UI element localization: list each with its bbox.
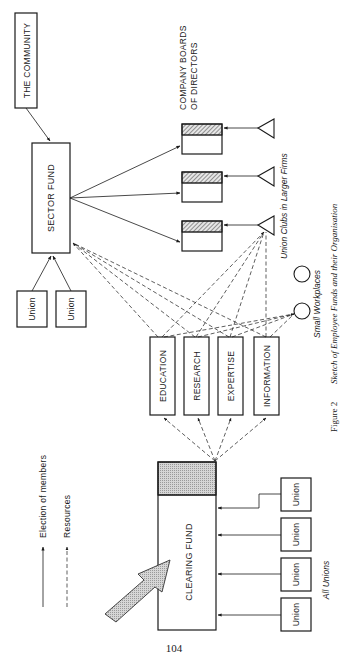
resource-research: RESEARCH	[184, 337, 209, 415]
company-boards-label-1: COMPANY BOARDS	[178, 25, 188, 110]
sector-union-2: Union	[56, 291, 86, 327]
sector-union-1-label: Union	[27, 297, 37, 321]
clearing-union-3-label: Union	[291, 563, 301, 587]
all-unions-label: All Unions	[321, 560, 331, 600]
resource-information-label: INFORMATION	[262, 345, 272, 407]
resources-to-workplaces-dashed	[164, 314, 294, 337]
legend: Election of members Resources	[38, 455, 72, 607]
resource-research-label: RESEARCH	[192, 351, 202, 401]
union-to-sector-arrow	[32, 256, 51, 291]
company-board-1	[182, 124, 222, 154]
figure-number: Figure 2	[329, 402, 339, 432]
clearing-fund-label: CLEARING FUND	[184, 523, 194, 601]
company-board-3	[182, 221, 222, 251]
union-club-1	[258, 119, 274, 138]
sector-fund-label: SECTOR FUND	[46, 164, 56, 232]
clearing-union-3: Union	[281, 558, 311, 591]
big-input-arrow	[105, 560, 170, 622]
company-boards-label-2: OF DIRECTORS	[189, 42, 199, 110]
sector-to-board-arrow	[70, 146, 180, 198]
community-node: THE COMMUNITY	[15, 13, 37, 108]
small-workplaces-label: Small Workplaces	[312, 269, 322, 338]
union-to-clearing-arrow	[218, 494, 281, 508]
resource-information: INFORMATION	[254, 337, 279, 415]
small-workplace-1	[294, 266, 310, 282]
resource-education: EDUCATION	[150, 337, 175, 415]
resources-to-clubs-dashed	[162, 232, 266, 337]
legend-resources-label: Resources	[62, 495, 72, 538]
page-number: 104	[166, 642, 183, 654]
community-label: THE COMMUNITY	[22, 23, 32, 99]
clearing-union-4-label: Union	[291, 603, 301, 627]
union-club-2	[258, 167, 274, 186]
union-to-sector-arrow	[53, 256, 71, 291]
clearing-union-1: Union	[281, 478, 311, 511]
sector-union-2-label: Union	[66, 297, 76, 321]
community-to-sector-arrow	[26, 108, 50, 141]
sector-union-1: Union	[17, 291, 47, 327]
clearing-union-1-label: Union	[291, 483, 301, 507]
resource-expertise: EXPERTISE	[218, 337, 243, 415]
clearing-to-resources-dashed	[164, 418, 266, 461]
clearing-union-2-label: Union	[291, 523, 301, 547]
resource-education-label: EDUCATION	[158, 350, 168, 402]
legend-election-label: Election of members	[38, 455, 48, 538]
company-board-2	[182, 172, 222, 202]
clearing-union-4: Union	[281, 598, 311, 631]
union-clubs-label: Union Clubs in Larger Firms	[279, 152, 289, 259]
clearing-fund-node: CLEARING FUND	[158, 462, 216, 630]
figure-title: Sketch of Employee Funds and their Organ…	[329, 203, 339, 384]
employee-funds-diagram: THE COMMUNITY SECTOR FUND Union Union CO…	[0, 0, 348, 656]
resource-expertise-label: EXPERTISE	[226, 351, 236, 401]
small-workplace-2	[294, 303, 310, 319]
sector-to-board-arrow	[70, 198, 180, 242]
sector-to-board-arrow	[70, 193, 180, 198]
clearing-union-2: Union	[281, 518, 311, 551]
resources-to-sector-dashed	[73, 243, 266, 337]
sector-fund-node: SECTOR FUND	[32, 143, 70, 253]
